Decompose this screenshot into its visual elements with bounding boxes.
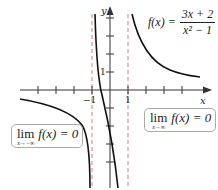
lim-expression: f(x) = 0	[38, 126, 78, 141]
x-tick-label-neg1: −1	[83, 95, 96, 105]
function-numerator: 3x + 2	[180, 7, 215, 23]
lim-subscript: x→∞	[150, 124, 167, 130]
lim-label: lim	[150, 110, 167, 125]
lim-label: lim	[17, 126, 34, 141]
x-tick-label-1: 1	[125, 95, 131, 105]
x-axis-arrow-icon	[203, 87, 212, 94]
function-fraction: 3x + 2 x² − 1	[180, 7, 215, 38]
function-denominator: x² − 1	[181, 23, 214, 38]
lim-expression: f(x) = 0	[171, 110, 211, 125]
function-label: f(x) =	[148, 15, 176, 30]
function-formula: f(x) = 3x + 2 x² − 1	[148, 7, 215, 38]
y-axis-arrow-icon	[107, 6, 114, 15]
y-tick-label-1: 1	[100, 67, 106, 77]
lim-subscript: x→−∞	[17, 140, 34, 146]
limit-neg-infinity-box: lim x→−∞ f(x) = 0	[11, 124, 83, 148]
limit-pos-infinity-box: lim x→∞ f(x) = 0	[144, 108, 216, 132]
y-axis-label: y	[100, 5, 107, 16]
x-axis-label: x	[200, 95, 206, 106]
